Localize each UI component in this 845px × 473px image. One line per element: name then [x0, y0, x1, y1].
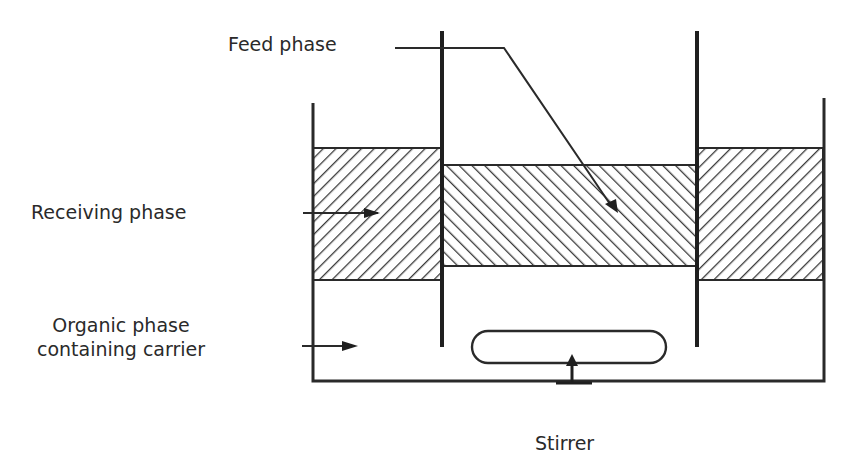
receiving-phase-label: Receiving phase: [31, 200, 186, 224]
stirrer-label: Stirrer: [535, 431, 594, 455]
feed-phase-center: [443, 165, 696, 266]
receiving-phase-right: [698, 148, 823, 280]
stirrer-bar: [472, 331, 666, 363]
organic-phase-label-line2: containing carrier: [16, 337, 226, 361]
organic-phase-label-line1: Organic phase: [16, 313, 226, 337]
membrane-cell-diagram: [0, 0, 845, 473]
feed-phase-label: Feed phase: [228, 32, 337, 56]
organic-phase-arrow: [302, 341, 358, 351]
organic-phase-label: Organic phase containing carrier: [16, 313, 226, 361]
